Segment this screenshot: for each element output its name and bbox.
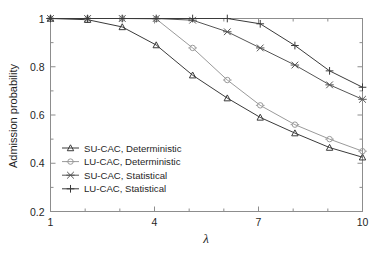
data-point-marker <box>223 28 231 35</box>
x-tick-label: 10 <box>357 216 369 228</box>
series-4 <box>47 15 367 91</box>
legend-label: LU-CAC, Deterministic <box>84 156 181 167</box>
legend-entry-3: SU-CAC, Statistical <box>62 170 167 181</box>
data-point-marker <box>256 45 264 52</box>
y-tick-label: 0.4 <box>30 157 45 169</box>
legend-entry-4: LU-CAC, Statistical <box>62 183 166 194</box>
y-axis-title: Admission probability <box>7 64 19 168</box>
legend-label: LU-CAC, Statistical <box>84 183 166 194</box>
legend-label: SU-CAC, Statistical <box>84 170 167 181</box>
chart-legend: SU-CAC, DeterministicLU-CAC, Determinist… <box>62 143 182 195</box>
data-point-marker <box>325 81 333 88</box>
series-line <box>51 19 363 100</box>
series-line <box>51 19 363 158</box>
y-tick-label: 0.6 <box>30 109 45 121</box>
y-tick-label: 1 <box>39 13 45 25</box>
x-axis-title: λ <box>202 231 209 246</box>
data-point-marker <box>66 172 74 179</box>
data-point-marker <box>291 42 299 50</box>
y-tick-label: 0.2 <box>30 206 45 218</box>
data-point-marker <box>67 185 75 193</box>
x-tick-label: 4 <box>152 216 158 228</box>
data-point-marker <box>256 20 264 28</box>
legend-label: SU-CAC, Deterministic <box>84 143 182 154</box>
series-1 <box>47 15 365 160</box>
legend-entry-2: LU-CAC, Deterministic <box>62 156 181 167</box>
x-tick-label: 1 <box>48 216 54 228</box>
chart-figure: 14710 0.20.40.60.81 Admission probabilit… <box>0 0 390 261</box>
line-chart: 14710 0.20.40.60.81 Admission probabilit… <box>0 0 390 261</box>
data-point-marker <box>291 62 299 69</box>
legend-entry-1: SU-CAC, Deterministic <box>62 143 182 154</box>
series-3 <box>46 15 366 103</box>
data-point-marker <box>359 83 367 91</box>
data-point-marker <box>223 15 231 23</box>
y-axis-tick-labels: 0.20.40.60.81 <box>30 13 45 218</box>
data-point-marker <box>326 67 334 75</box>
y-tick-label: 0.8 <box>30 61 45 73</box>
data-series-layer <box>46 15 367 160</box>
x-axis-tick-labels: 14710 <box>48 216 369 228</box>
x-tick-label: 7 <box>256 216 262 228</box>
